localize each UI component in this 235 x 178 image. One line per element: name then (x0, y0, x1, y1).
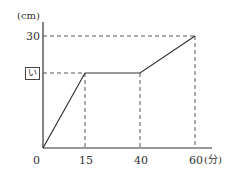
x-tick-15: 15 (79, 155, 93, 166)
x-tick-60: 60 (189, 155, 203, 166)
x-tick-40: 40 (134, 155, 148, 166)
chart-canvas (0, 0, 235, 178)
y-tick-30: 30 (26, 31, 40, 42)
y-axis-unit: (cm) (17, 11, 40, 21)
x-tick-0: 0 (33, 155, 40, 166)
y-unknown-box: い (25, 67, 40, 80)
data-line (43, 36, 195, 148)
dashed-guides (43, 36, 195, 148)
x-axis-unit: (分) (204, 155, 222, 165)
